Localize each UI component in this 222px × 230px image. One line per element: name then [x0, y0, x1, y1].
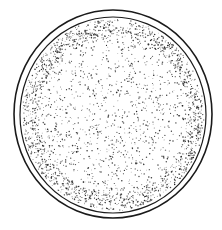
stippled-cell-drawing — [0, 0, 222, 230]
